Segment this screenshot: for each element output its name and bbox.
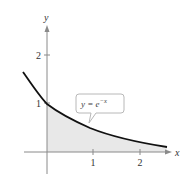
- function-callout: y = e−x: [76, 94, 124, 123]
- y-axis-arrow-icon: [45, 25, 50, 32]
- chart-figure: 1 2 2 1 x y y = e−x: [0, 0, 186, 188]
- chart-svg: 1 2 2 1 x y y = e−x: [0, 0, 186, 188]
- x-axis-arrow-icon: [165, 150, 172, 155]
- y-tick-label-1: 1: [36, 98, 41, 109]
- y-tick-label-2: 2: [36, 50, 41, 61]
- x-tick-label-2: 2: [138, 157, 143, 168]
- x-axis-label: x: [174, 147, 180, 158]
- x-tick-label-1: 1: [91, 157, 96, 168]
- y-axis-label: y: [43, 12, 49, 23]
